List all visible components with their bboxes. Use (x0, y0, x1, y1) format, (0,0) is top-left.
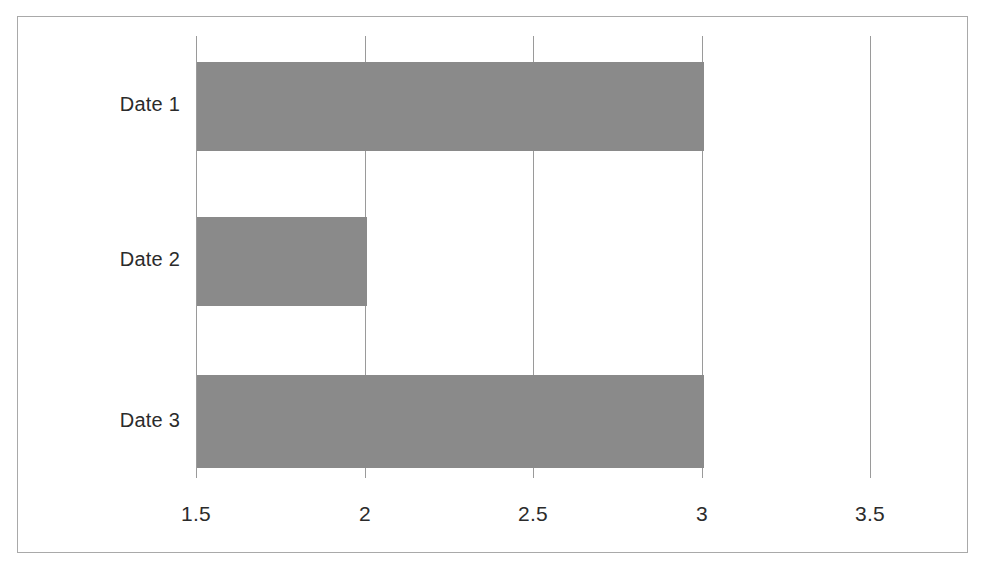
bar-date-1 (197, 62, 704, 151)
x-axis-tick-label-1: 2 (359, 502, 371, 526)
y-axis-label-date-3: Date 3 (30, 409, 180, 432)
y-axis-label-date-2: Date 2 (30, 248, 180, 271)
y-axis-label-date-1: Date 1 (30, 93, 180, 116)
x-axis-tick-label-4: 3.5 (855, 502, 885, 526)
bar-date-3 (197, 375, 704, 468)
x-axis-tick-label-0: 1.5 (181, 502, 211, 526)
x-axis-tick-label-3: 3 (696, 502, 708, 526)
chart-screenshot: Date 1 Date 2 Date 3 1.5 2 2.5 3 3.5 (0, 0, 985, 576)
gridline-tick-4 (870, 36, 871, 478)
x-axis-tick-label-2: 2.5 (518, 502, 548, 526)
plot-area: Date 1 Date 2 Date 3 1.5 2 2.5 3 3.5 (0, 0, 985, 576)
bar-date-2 (197, 217, 367, 306)
